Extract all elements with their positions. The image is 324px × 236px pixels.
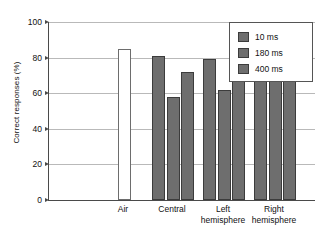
y-tick-label: 40 [16, 125, 42, 134]
bar [167, 97, 180, 200]
y-tick-mark [45, 198, 49, 202]
y-axis-title: Correct responses (%) [12, 23, 21, 183]
bar [181, 72, 194, 200]
y-tick-label: 20 [16, 160, 42, 169]
legend-item: 400 ms [238, 61, 312, 77]
y-tick-label: 0 [16, 196, 42, 205]
y-tick-mark [45, 162, 49, 166]
bar-chart: Correct responses (%) 020406080100 AirCe… [0, 0, 324, 236]
bar [218, 90, 231, 200]
y-tick-mark [45, 91, 49, 95]
legend-label: 10 ms [255, 32, 278, 42]
legend-item: 180 ms [238, 45, 312, 61]
y-tick-mark [45, 127, 49, 131]
y-tick-mark [45, 20, 49, 24]
y-tick-mark [45, 56, 49, 60]
legend: 10 ms180 ms400 ms [229, 22, 313, 82]
x-axis-label: Right hemisphere [234, 204, 314, 225]
bar [118, 49, 131, 200]
legend-item: 10 ms [238, 29, 312, 45]
bar [203, 59, 216, 200]
legend-label: 180 ms [255, 48, 283, 58]
y-tick-label: 80 [16, 53, 42, 62]
y-tick-label: 100 [16, 18, 42, 27]
legend-swatch-icon [238, 64, 249, 74]
legend-swatch-icon [238, 48, 249, 58]
bar [232, 68, 245, 200]
legend-swatch-icon [238, 32, 249, 42]
y-tick-label: 60 [16, 89, 42, 98]
bar [152, 56, 165, 200]
legend-label: 400 ms [255, 64, 283, 74]
